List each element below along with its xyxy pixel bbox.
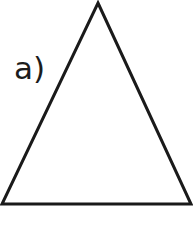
figure-panel: a) — [0, 0, 193, 226]
triangle-figure-canvas — [0, 0, 193, 226]
triangle-shape — [2, 3, 191, 204]
panel-label: a) — [14, 50, 45, 86]
